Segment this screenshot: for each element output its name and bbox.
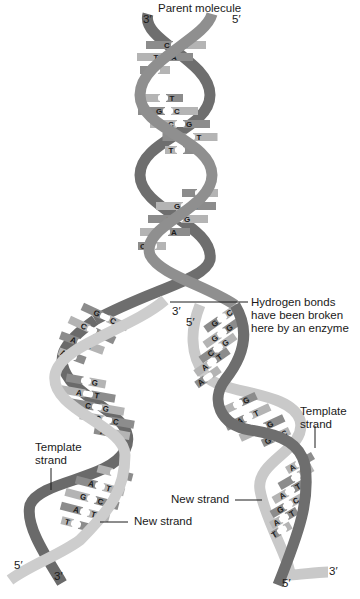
parent-molecule-label: Parent molecule — [158, 2, 241, 15]
end-label-bottom-left-3prime: 3′ — [54, 570, 63, 582]
end-label-bottom-right-5prime: 5′ — [282, 577, 291, 589]
template-strand-right-line2: strand — [300, 418, 347, 431]
nucleotide-base: T — [197, 133, 202, 142]
hydrogen-bonds-line1: Hydrogen bonds — [251, 296, 349, 309]
end-label-top-3prime: 3′ — [143, 13, 152, 25]
new-strand-right-label: New strand — [171, 493, 229, 506]
right-new-strand — [193, 305, 328, 575]
end-label-bottom-left-5prime: 5′ — [14, 559, 23, 571]
new-strand-left-label: New strand — [134, 515, 192, 528]
nucleotide-base: A — [171, 228, 177, 237]
hydrogen-bonds-line3: here by an enzyme — [251, 322, 349, 335]
left-daughter-helix: GCCGATAGATCGGCATATGCATT — [10, 300, 165, 583]
end-label-bottom-right-3prime: 3′ — [329, 565, 338, 577]
base-pair: T — [143, 94, 183, 103]
hydrogen-bond — [163, 108, 173, 114]
end-label-fork-5prime: 5′ — [186, 316, 195, 328]
template-strand-right-label: Template strand — [300, 405, 347, 431]
end-label-top-5prime: 5′ — [232, 13, 241, 25]
template-strand-left-line1: Template — [35, 441, 82, 454]
nucleotide-base: G — [186, 120, 192, 129]
right-daughter-helix: GCGGCGATAGATCGGCATATGCATT — [193, 303, 328, 585]
hydrogen-bonds-line2: have been broken — [251, 309, 349, 322]
template-strand-right-line1: Template — [300, 405, 347, 418]
hydrogen-bond — [158, 95, 168, 101]
template-strand-left-line2: strand — [35, 454, 82, 467]
nucleotide-base: T — [169, 146, 174, 155]
hydrogen-bond — [175, 121, 185, 127]
template-strand-left-label: Template strand — [35, 441, 82, 467]
nucleotide-base: T — [170, 94, 175, 103]
parent-molecule-helix: CGTATGCCGATTTGCCGTAC — [95, 14, 235, 320]
nucleotide-base: G — [156, 107, 162, 116]
right-template-strand — [218, 305, 306, 585]
hydrogen-bonds-label: Hydrogen bonds have been broken here by … — [251, 296, 349, 335]
nucleotide-base: C — [174, 107, 180, 116]
hydrogen-bond — [175, 147, 185, 153]
end-label-fork-3prime: 3′ — [172, 305, 181, 317]
